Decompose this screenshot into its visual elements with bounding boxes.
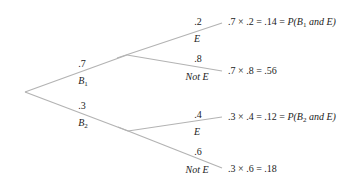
branch-b1-e: [117, 23, 222, 58]
b2-not-e-label: Not E: [185, 164, 208, 175]
b2-e-result: .3 × .4 = .12 = P(B2 and E): [228, 111, 336, 126]
branch-b2: [25, 92, 128, 131]
b1-not-e-result: .7 × .8 = .56: [228, 65, 277, 76]
branch-b1: [25, 55, 127, 92]
b2-e-probability: .4: [194, 109, 202, 120]
b2-not-e-probability: .6: [194, 146, 202, 157]
branch-b1-not-e: [127, 55, 222, 71]
b1-label: B1: [78, 75, 88, 90]
b2-e-label: E: [194, 126, 200, 137]
b2-label: B2: [78, 117, 88, 132]
b1-e-label: E: [194, 33, 200, 44]
b1-not-e-label: Not E: [185, 71, 208, 82]
b1-e-probability: .2: [194, 16, 202, 27]
b1-e-result: .7 × .2 = .14 = P(B1 and E): [228, 16, 336, 31]
b2-probability: .3: [78, 100, 86, 111]
b1-not-e-probability: .8: [194, 53, 202, 64]
branch-b2-not-e: [118, 127, 222, 168]
b1-probability: .7: [78, 58, 86, 69]
branch-b2-e: [128, 117, 222, 131]
b2-not-e-result: .3 × .6 = .18: [228, 163, 277, 174]
